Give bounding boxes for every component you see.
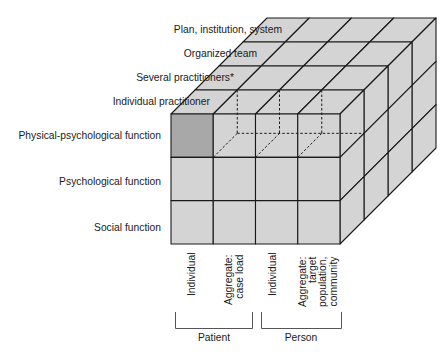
front-cell	[298, 157, 340, 200]
group-label-person: Person	[285, 332, 318, 343]
front-cell	[298, 201, 340, 244]
highlighted-cell	[171, 114, 213, 157]
depth-label-plan: Plan, institution, system	[174, 24, 282, 35]
row-label-psychological: Psychological function	[59, 176, 161, 187]
column-label-person-aggregate: Aggregate: target population, community	[297, 256, 339, 307]
column-label-person-individual: Individual	[267, 252, 278, 296]
front-cell	[213, 201, 255, 244]
row-label-physical: Physical-psychological function	[18, 130, 161, 141]
svg-text:case load: case load	[234, 254, 245, 298]
person-bracket	[262, 312, 342, 329]
svg-text:Individual: Individual	[267, 252, 278, 296]
front-cell	[256, 201, 298, 244]
depth-label-several: Several practitioners*	[136, 72, 234, 83]
patient-bracket	[176, 312, 253, 329]
front-cell	[171, 157, 213, 200]
svg-text:Aggregate:: Aggregate:	[223, 255, 234, 305]
column-label-patient-individual: Individual	[186, 252, 197, 296]
cube-diagram: Plan, institution, system Organized team…	[0, 0, 446, 355]
column-label-patient-aggregate: Aggregate: case load	[223, 254, 245, 305]
row-label-social: Social function	[94, 222, 161, 233]
front-cell	[256, 157, 298, 200]
svg-text:Individual: Individual	[186, 252, 197, 296]
front-cell	[171, 201, 213, 244]
depth-label-individual: Individual practitioner	[113, 96, 211, 107]
front-cell	[213, 157, 255, 200]
svg-text:community: community	[328, 256, 339, 307]
group-label-patient: Patient	[198, 332, 230, 343]
depth-label-team: Organized team	[184, 48, 257, 59]
